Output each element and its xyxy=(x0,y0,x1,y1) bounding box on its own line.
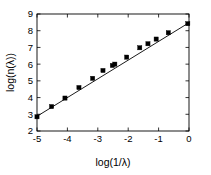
x-axis-tick-labels: -5-4-3-2-10 xyxy=(33,133,192,144)
x-tick-label: -4 xyxy=(63,133,71,144)
data-point xyxy=(125,55,129,59)
data-point xyxy=(154,37,158,41)
y-tick-label: 8 xyxy=(28,25,33,36)
data-point xyxy=(113,62,117,66)
x-tick-label: 0 xyxy=(186,133,191,144)
y-axis-tick-labels: 23456789 xyxy=(28,8,33,136)
y-tick-label: 7 xyxy=(28,42,33,53)
y-tick-label: 2 xyxy=(28,125,33,136)
y-tick-label: 5 xyxy=(28,75,33,86)
data-point xyxy=(138,46,142,50)
y-axis-title: log(n(λ)) xyxy=(4,53,16,92)
y-tick-label: 3 xyxy=(28,109,33,120)
data-point xyxy=(49,105,53,109)
figure-container: -5-4-3-2-10 23456789 log(1/λ) log(n(λ)) xyxy=(0,0,211,175)
y-tick-label: 9 xyxy=(28,8,33,19)
y-tick-label: 4 xyxy=(28,92,33,103)
data-point xyxy=(91,76,95,80)
scatter-plot: -5-4-3-2-10 23456789 log(1/λ) log(n(λ)) xyxy=(0,0,211,175)
x-tick-label: -3 xyxy=(94,133,102,144)
data-point xyxy=(63,96,67,100)
data-point xyxy=(146,42,150,46)
data-point xyxy=(166,31,170,35)
data-point xyxy=(101,68,105,72)
y-tick-label: 6 xyxy=(28,59,33,70)
x-axis-title: log(1/λ) xyxy=(95,156,130,168)
data-point xyxy=(77,85,81,89)
x-tick-label: -5 xyxy=(33,133,41,144)
x-tick-label: -1 xyxy=(154,133,162,144)
x-tick-label: -2 xyxy=(124,133,132,144)
